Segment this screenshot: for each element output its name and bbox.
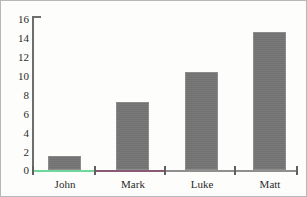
x-axis-tick-0 [32,166,34,175]
x-axis-segment-luke [164,170,234,172]
x-axis-tick-1 [94,166,96,175]
x-tick-label-matt: Matt [241,178,299,190]
x-axis-segment-matt [234,170,298,172]
plot-area: 16 14 12 10 8 6 4 2 0 John Mark Luke Mat… [1,1,307,197]
x-axis-tick-3 [234,166,236,175]
bar-john [48,156,81,170]
y-axis-top-tick [34,16,41,18]
x-axis-tick-4 [296,166,298,175]
bar-chart-figure: 16 14 12 10 8 6 4 2 0 John Mark Luke Mat… [0,0,307,197]
x-axis-segment-john [32,170,94,172]
x-axis-segment-mark [94,170,164,172]
x-tick-label-john: John [36,178,94,190]
bar-matt [253,32,286,170]
x-tick-label-mark: Mark [104,178,162,190]
x-tick-label-luke: Luke [173,178,231,190]
bar-luke [185,72,218,170]
y-axis-line [32,16,34,171]
bar-mark [116,102,149,170]
x-axis-tick-2 [164,166,166,175]
